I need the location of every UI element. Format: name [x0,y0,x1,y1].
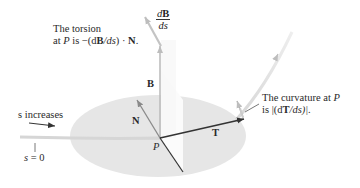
curvature-line-2: is |(dT/ds)|. [262,104,340,116]
point-label: P [153,141,159,153]
torsion-line-2: at P is −(dB/ds) · N. [53,35,138,47]
torsion-label: The torsion at P is −(dB/ds) · N. [53,23,138,47]
osculating-plane [70,95,246,177]
s-increases-label: s increases [18,109,63,121]
torsion-line-1: The torsion [53,23,138,35]
binormal-label: B [147,78,154,90]
curvature-line-1: The curvature at P [262,92,340,104]
direction-arrow-icon [29,123,55,126]
s-zero-label: s = 0 [24,152,45,164]
binormal-derivative-label: dB ds [156,8,170,31]
curvature-label: The curvature at P is |(dT/ds)|. [262,92,340,116]
tangent-label: T [212,127,219,139]
space-curve-left [20,137,160,138]
normal-label: N [132,115,140,127]
